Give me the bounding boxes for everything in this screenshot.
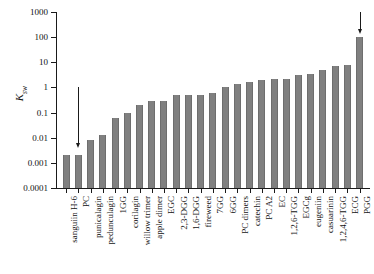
bars-layer [57, 12, 370, 188]
bar [148, 101, 155, 188]
x-axis-tick [225, 189, 226, 193]
x-axis-tick-label: willow trimer [143, 196, 152, 245]
bar [246, 82, 253, 188]
x-axis-tick [188, 189, 189, 193]
down-arrow-right-icon [358, 12, 363, 34]
x-axis-tick-label: sanguiin H-6 [70, 196, 79, 243]
x-axis-tick-label: EC [278, 196, 287, 208]
x-axis-tick [164, 189, 165, 193]
x-axis-tick-label: 1GG [119, 196, 128, 214]
y-axis-tick-label: 1000 [30, 8, 48, 17]
x-axis-tick [127, 189, 128, 193]
x-axis-tick-label: eugeniin [314, 196, 323, 227]
x-axis-tick-label: pedunculagin [106, 196, 115, 245]
x-axis-tick-label: fireweed [204, 196, 213, 227]
bar [185, 95, 192, 188]
bar [356, 37, 363, 188]
bar [283, 79, 290, 188]
x-axis-tick [152, 189, 153, 193]
bar [258, 80, 265, 188]
bar [234, 84, 241, 188]
bar [319, 70, 326, 188]
y-axis-tick-label: 0.0001 [23, 184, 48, 193]
bar [332, 66, 339, 188]
x-axis-tick [286, 189, 287, 193]
x-axis-tick [250, 189, 251, 193]
x-axis-tick-label: 7GG [216, 196, 225, 214]
x-axis-tick-label: 1,6-DGG [192, 196, 201, 230]
bar [271, 79, 278, 188]
y-axis-tick-label: 1 [44, 83, 49, 92]
x-axis-tick-label: apple dimer [155, 196, 164, 239]
bar [99, 135, 106, 188]
arrow-head [76, 143, 80, 148]
y-axis-tick-label: 0.001 [28, 159, 48, 168]
x-axis-tick-label: PC dimers [241, 196, 250, 234]
bar [63, 155, 70, 188]
x-axis-tick-label: EGCg [302, 196, 311, 219]
x-axis-tick-label: PC A2 [265, 196, 274, 220]
plot-area [57, 12, 370, 188]
x-axis-tick [201, 189, 202, 193]
x-axis-tick [176, 189, 177, 193]
bar [112, 118, 119, 188]
bar-chart: Ksw 10001001010.10.010.0010.0001 sanguii… [0, 0, 374, 274]
x-axis-tick-label: corilagin [131, 196, 140, 228]
x-axis-tick [78, 189, 79, 193]
y-axis-tick-label: 100 [35, 33, 49, 42]
x-axis-tick [103, 189, 104, 193]
x-axis-tick-label: PGG [363, 196, 372, 214]
x-axis-tick [115, 189, 116, 193]
bar [209, 93, 216, 188]
x-axis-tick [360, 189, 361, 193]
x-axis-tick [274, 189, 275, 193]
y-axis-tick-label: 0.1 [37, 109, 48, 118]
arrow-shaft [78, 87, 79, 143]
bar [124, 113, 131, 188]
down-arrow-left-icon [76, 87, 81, 147]
bar [75, 155, 82, 188]
x-axis-tick [347, 189, 348, 193]
x-axis-tick [323, 189, 324, 193]
x-axis-tick [335, 189, 336, 193]
x-axis-tick-label: catechin [253, 196, 262, 226]
y-axis-title: Ksw [13, 77, 28, 111]
bar [222, 87, 229, 188]
x-axis-tick-label: EGC [167, 196, 176, 214]
bar [87, 140, 94, 188]
y-axis-title-base: K [13, 94, 25, 101]
bar [160, 101, 167, 188]
x-axis-tick-label: 2,3-DGG [180, 196, 189, 230]
bar [173, 95, 180, 188]
bar [136, 105, 143, 188]
x-axis-tick-label: casuarinin [326, 196, 335, 233]
x-axis-tick [213, 189, 214, 193]
x-axis-tick-label: 1,2,4,6-TGG [339, 196, 348, 242]
x-axis-tick [66, 189, 67, 193]
x-axis-tick [262, 189, 263, 193]
x-axis-tick [311, 189, 312, 193]
x-axis-tick-label: ECG [351, 196, 360, 214]
y-axis-tick-label: 10 [39, 58, 48, 67]
x-axis-tick-label: punicalagin [94, 196, 103, 238]
bar [307, 74, 314, 188]
x-axis-tick-label: PC [82, 196, 91, 207]
bar [197, 95, 204, 188]
x-axis-tick [237, 189, 238, 193]
x-axis-tick [298, 189, 299, 193]
bar [344, 65, 351, 188]
arrow-head [358, 29, 362, 34]
arrow-shaft [360, 12, 361, 30]
y-axis-title-subscript: sw [20, 86, 29, 94]
x-axis-tick-label: 6GG [229, 196, 238, 214]
y-axis-tick-label: 0.01 [32, 134, 48, 143]
x-axis-tick [140, 189, 141, 193]
bar [295, 75, 302, 188]
x-axis-tick-label: 1,2,6-TGG [290, 196, 299, 236]
x-axis-tick [91, 189, 92, 193]
